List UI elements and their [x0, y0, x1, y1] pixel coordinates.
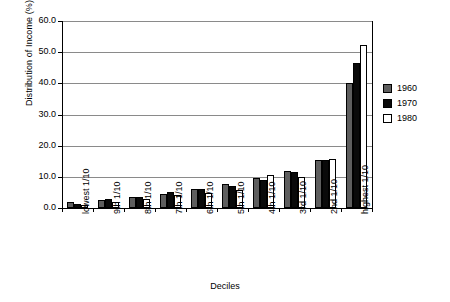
y-axis-line: [62, 21, 63, 209]
chart-legend: 1960 1970 1980: [383, 82, 417, 127]
bar: [260, 180, 267, 208]
bar: [322, 160, 329, 208]
y-tick-label: 50.0: [22, 47, 56, 56]
y-tick-label: 60.0: [22, 16, 56, 25]
x-tick-mark: [186, 208, 187, 212]
bar: [346, 83, 353, 208]
x-tick-label: 5th 1/10: [237, 181, 246, 214]
y-tick-label: 20.0: [22, 141, 56, 150]
x-tick-mark: [248, 208, 249, 212]
legend-label-1970: 1970: [397, 99, 417, 108]
legend-swatch-1960: [383, 84, 392, 93]
y-tick-label: 30.0: [22, 110, 56, 119]
x-tick-mark: [310, 208, 311, 212]
bar: [291, 172, 298, 208]
legend-swatch-1980: [383, 114, 392, 123]
x-tick-label: 4th 1/10: [268, 181, 277, 214]
bar: [253, 178, 260, 208]
bar-group: [248, 21, 279, 208]
x-tick-label: 3rd 1/10: [299, 181, 308, 214]
x-tick-label: 8th 1/10: [144, 181, 153, 214]
bar: [167, 192, 174, 208]
x-tick-mark: [62, 208, 63, 212]
x-tick-mark: [93, 208, 94, 212]
bar-group: [155, 21, 186, 208]
y-tick-label: 40.0: [22, 78, 56, 87]
x-tick-mark: [155, 208, 156, 212]
plot-area: [62, 21, 372, 208]
legend-label-1960: 1960: [397, 84, 417, 93]
x-tick-mark: [372, 208, 373, 212]
y-tick-label: 10.0: [22, 172, 56, 181]
bar: [136, 197, 143, 208]
bar: [198, 189, 205, 208]
bar-group: [279, 21, 310, 208]
x-tick-label: 9th 1/10: [113, 181, 122, 214]
bar-group: [93, 21, 124, 208]
x-tick-mark: [217, 208, 218, 212]
bar: [105, 199, 112, 208]
legend-item: 1970: [383, 97, 417, 110]
legend-item: 1960: [383, 82, 417, 95]
x-tick-mark: [341, 208, 342, 212]
x-tick-label: 2nd 1/10: [330, 179, 339, 214]
x-tick-label: highest 1/10: [361, 165, 370, 214]
bar: [160, 194, 167, 208]
bar: [222, 184, 229, 208]
bar-group: [217, 21, 248, 208]
y-tick-label: 0.0: [22, 203, 56, 212]
x-tick-label: 7th 1/10: [175, 181, 184, 214]
x-tick-mark: [279, 208, 280, 212]
bar-group: [186, 21, 217, 208]
x-axis-title: Deciles: [0, 281, 450, 291]
legend-swatch-1970: [383, 99, 392, 108]
bar: [129, 197, 136, 208]
bar: [191, 189, 198, 208]
right-axis-line: [372, 21, 373, 209]
x-tick-label: lowest 1/10: [82, 168, 91, 214]
legend-label-1980: 1980: [397, 114, 417, 123]
legend-item: 1980: [383, 112, 417, 125]
bar: [98, 200, 105, 208]
bar: [229, 186, 236, 208]
x-tick-label: 6th 1/10: [206, 181, 215, 214]
chart-container: Distribution of Income (%) 0.010.020.030…: [0, 0, 450, 302]
bar: [315, 160, 322, 208]
x-tick-mark: [124, 208, 125, 212]
bar-group: [124, 21, 155, 208]
bar: [353, 63, 360, 208]
bar: [284, 171, 291, 208]
